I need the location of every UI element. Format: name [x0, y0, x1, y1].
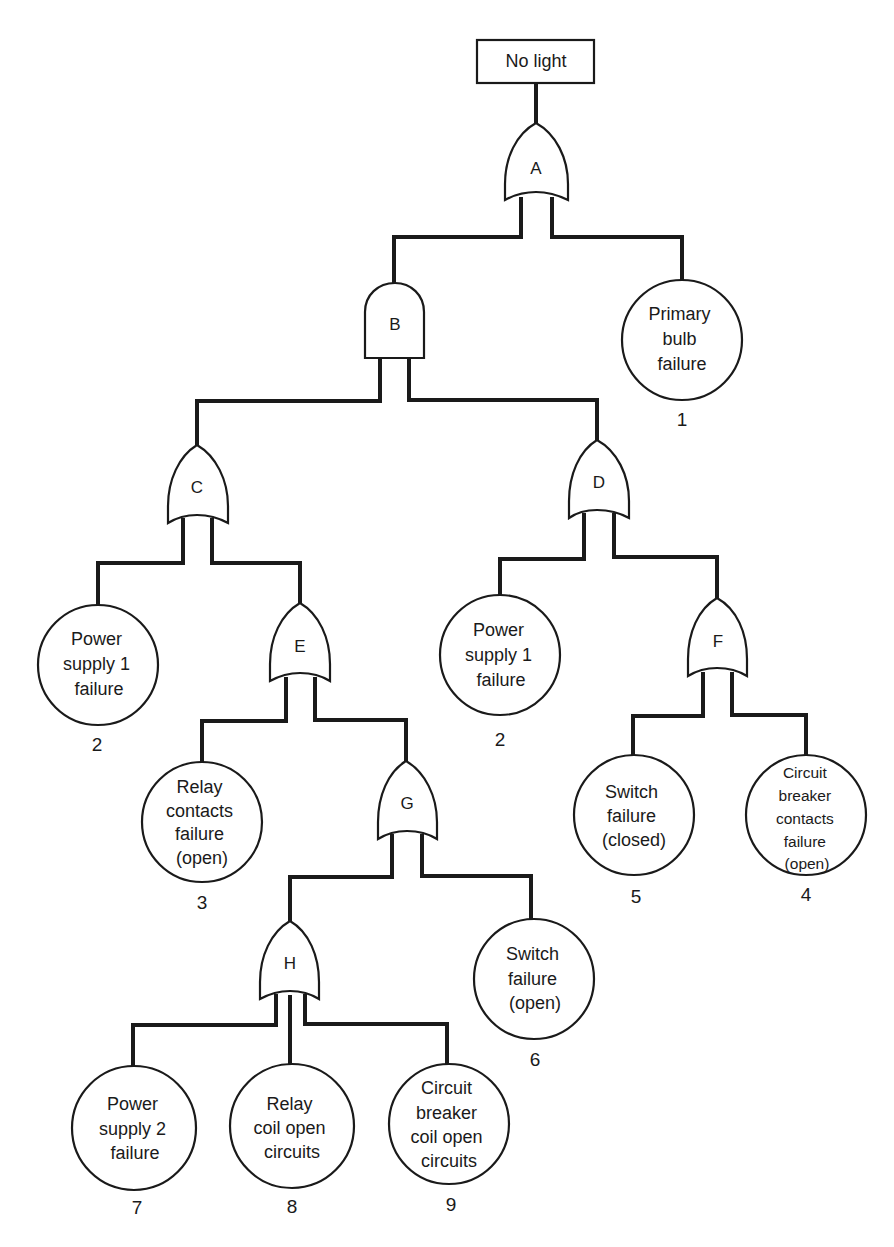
wire-E-to-e3	[202, 679, 286, 762]
fault-tree-diagram: No light A B C D E F G H Primary	[0, 0, 894, 1247]
event-number: 4	[801, 884, 812, 905]
connector-lines	[98, 83, 806, 1066]
gate-G: G	[378, 761, 437, 839]
wire-B-to-C	[197, 357, 380, 445]
event-number: 5	[631, 886, 642, 907]
basic-event-circuit-breaker-coil-open-circuits: Circuit breaker coil open circuits 9	[389, 1064, 509, 1215]
gate-D: D	[569, 440, 629, 518]
wire-B-to-D	[409, 357, 597, 440]
basic-event-power-supply-1-failure-right: Power supply 1 failure 2	[440, 595, 560, 750]
gate-A: A	[505, 123, 568, 200]
gate-label: C	[191, 478, 203, 497]
event-number: 3	[197, 892, 208, 913]
event-number: 7	[132, 1197, 143, 1218]
event-description: Switch failure (open)	[506, 944, 564, 1013]
wire-A-to-B	[394, 199, 521, 283]
gate-label: G	[400, 794, 413, 813]
basic-event-switch-failure-closed: Switch failure (closed) 5	[574, 755, 694, 907]
event-description: Circuit breaker contacts failure (open)	[776, 764, 838, 872]
gate-label: D	[593, 473, 605, 492]
top-event-label: No light	[505, 51, 566, 71]
wire-H-to-e9	[305, 996, 447, 1063]
event-description: Switch failure (closed)	[602, 782, 666, 850]
wire-G-to-e6	[422, 836, 531, 918]
wire-D-to-e2b	[500, 515, 584, 595]
wire-D-to-F	[614, 515, 717, 598]
basic-event-power-supply-1-failure-left: Power supply 1 failure 2	[38, 605, 158, 755]
wire-C-to-e2a	[98, 520, 183, 605]
wire-A-to-e1	[552, 199, 682, 280]
gate-F: F	[688, 598, 747, 676]
wire-F-to-e4	[732, 674, 806, 755]
basic-event-circuit-breaker-contacts-failure: Circuit breaker contacts failure (open) …	[746, 755, 866, 905]
wire-F-to-e5	[633, 674, 703, 755]
gate-label: H	[284, 954, 296, 973]
basic-event-primary-bulb-failure: Primary bulb failure 1	[622, 280, 742, 430]
basic-event-switch-failure-open: Switch failure (open) 6	[474, 919, 594, 1070]
gate-B: B	[365, 283, 424, 358]
event-number: 9	[446, 1194, 457, 1215]
event-number: 8	[287, 1196, 298, 1217]
event-number: 2	[495, 729, 506, 750]
gate-label: B	[389, 315, 400, 334]
gate-E: E	[270, 603, 330, 681]
top-event: No light	[477, 40, 594, 83]
wire-E-to-G	[315, 679, 406, 761]
gate-C: C	[168, 445, 228, 523]
gate-label: E	[294, 637, 305, 656]
basic-event-power-supply-2-failure: Power supply 2 failure 7	[72, 1066, 196, 1218]
basic-event-relay-contacts-failure: Relay contacts failure (open) 3	[142, 762, 262, 913]
gate-label: F	[713, 632, 723, 651]
gate-H: H	[260, 921, 319, 999]
wire-H-to-e7	[133, 996, 276, 1066]
event-number: 2	[92, 734, 103, 755]
basic-event-relay-coil-open-circuits: Relay coil open circuits 8	[230, 1064, 354, 1217]
event-number: 6	[530, 1049, 541, 1070]
gate-label: A	[530, 159, 542, 178]
wire-G-to-H	[290, 836, 392, 921]
wire-C-to-E	[212, 520, 300, 603]
event-number: 1	[677, 409, 688, 430]
